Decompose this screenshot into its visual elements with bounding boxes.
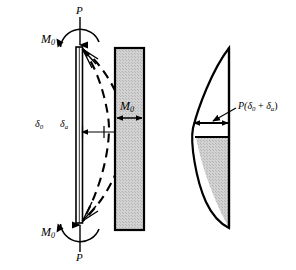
label-moment-m0-bottom: M0: [41, 226, 55, 240]
label-deflection-initial: δ0: [35, 119, 43, 130]
label-deflection-additional-sub: a: [65, 123, 68, 130]
label-load-p-top: P: [76, 5, 83, 16]
label-moment-m0-bottom-sub: 0: [51, 231, 55, 240]
label-moment-m0-top-letter: M: [41, 32, 51, 46]
uniform-moment-block: [115, 48, 144, 230]
label-p-delta-moment: P(δ0 + δa): [238, 101, 278, 112]
engineering-figure: P M0 M0 P δ0 δa M0 P(δ0 + δa): [0, 0, 296, 270]
secondary-moment-diagram-panel: [192, 48, 236, 228]
label-moment-m0-top-sub: 0: [51, 38, 55, 47]
label-moment-m0-bottom-letter: M: [41, 225, 51, 239]
label-deflection-initial-sub: 0: [40, 123, 43, 130]
label-p-delta-plus: +: [256, 100, 267, 111]
label-deflection-additional: δa: [60, 119, 68, 130]
label-uniform-moment-letter: M: [120, 99, 130, 113]
label-load-p-bottom: P: [76, 252, 83, 263]
p-delta-leader-line: [213, 108, 236, 121]
label-p-delta-suffix: ): [274, 100, 277, 111]
label-moment-m0-top: M0: [41, 33, 55, 47]
label-uniform-moment-m0: M0: [120, 100, 134, 114]
label-uniform-moment-sub: 0: [130, 105, 134, 114]
primary-moment-diagram-panel: [115, 48, 144, 230]
